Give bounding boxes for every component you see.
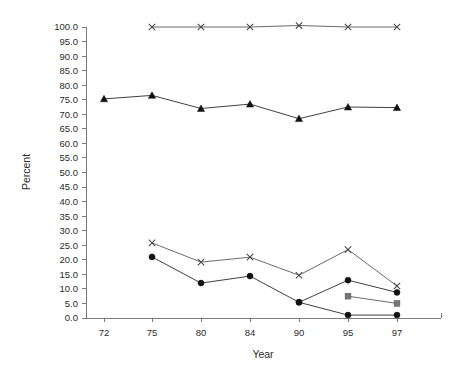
marker-circle <box>394 289 400 295</box>
y-tick-label: 80.0 <box>60 80 79 91</box>
marker-square <box>345 293 351 299</box>
x-tick-label: 75 <box>147 327 158 338</box>
y-axis-title: Percent <box>20 154 32 190</box>
y-tick-label: 100.0 <box>54 21 78 32</box>
marker-circle <box>345 312 351 318</box>
y-tick-label: 30.0 <box>60 225 79 236</box>
y-tick-label: 55.0 <box>60 152 79 163</box>
y-tick-label: 70.0 <box>60 109 79 120</box>
x-tick-label: 90 <box>294 327 305 338</box>
y-tick-label: 15.0 <box>60 269 79 280</box>
x-tick-label: 84 <box>245 327 256 338</box>
marker-circle <box>296 299 302 305</box>
chart-container: 0.05.010.015.020.025.030.035.040.045.050… <box>0 0 471 376</box>
marker-triangle <box>148 92 155 99</box>
marker-circle <box>247 273 253 279</box>
x-axis: 72758084909597 <box>86 313 441 338</box>
marker-x <box>394 283 400 289</box>
line-chart: 0.05.010.015.020.025.030.035.040.045.050… <box>0 0 471 376</box>
y-tick-label: 60.0 <box>60 138 79 149</box>
x-axis-title: Year <box>252 348 274 360</box>
y-tick-label: 50.0 <box>60 167 79 178</box>
series-line-series-x-lower <box>152 243 397 286</box>
x-tick-label: 95 <box>343 327 354 338</box>
marker-x <box>345 246 351 252</box>
y-tick-label: 20.0 <box>60 254 79 265</box>
y-tick-label: 35.0 <box>60 211 79 222</box>
y-tick-label: 65.0 <box>60 123 79 134</box>
marker-circle <box>345 277 351 283</box>
y-tick-label: 10.0 <box>60 283 79 294</box>
series-layer <box>100 22 400 318</box>
series-line-series-square <box>348 296 397 303</box>
marker-x <box>296 272 302 278</box>
y-tick-label: 5.0 <box>65 298 78 309</box>
y-axis: 0.05.010.015.020.025.030.035.040.045.050… <box>54 21 86 323</box>
marker-circle <box>149 254 155 260</box>
marker-x <box>149 240 155 246</box>
marker-square <box>394 301 400 307</box>
series-line-series-circle-upper <box>152 257 397 302</box>
y-tick-label: 85.0 <box>60 65 79 76</box>
y-tick-label: 0.0 <box>65 312 78 323</box>
y-tick-label: 75.0 <box>60 94 79 105</box>
y-tick-label: 95.0 <box>60 36 79 47</box>
y-tick-label: 40.0 <box>60 196 79 207</box>
x-tick-label: 72 <box>99 327 110 338</box>
marker-circle <box>198 280 204 286</box>
x-tick-label: 80 <box>196 327 207 338</box>
y-tick-label: 45.0 <box>60 181 79 192</box>
x-tick-label: 97 <box>392 327 403 338</box>
marker-triangle <box>246 101 253 108</box>
marker-circle <box>394 312 400 318</box>
y-tick-label: 25.0 <box>60 240 79 251</box>
y-tick-label: 90.0 <box>60 51 79 62</box>
series-line-series-x-top <box>152 26 397 28</box>
